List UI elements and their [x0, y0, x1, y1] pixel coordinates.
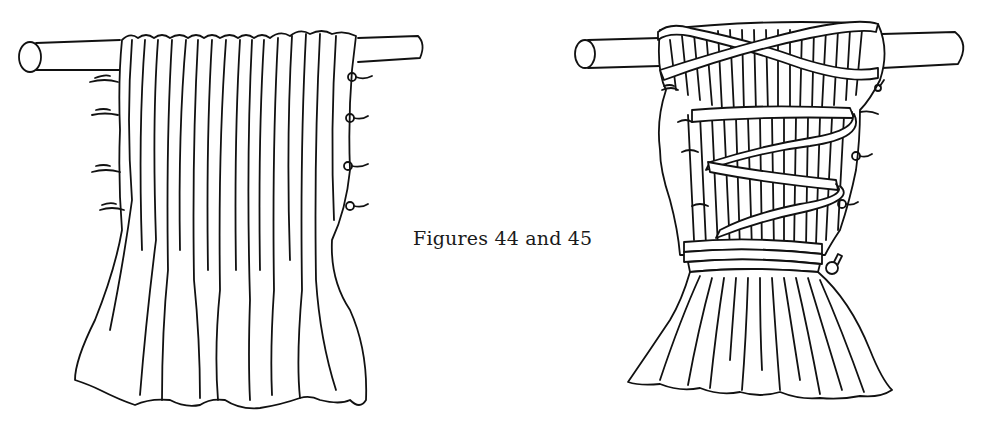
figure-45-illustration — [560, 0, 984, 435]
figure-44-illustration — [0, 0, 440, 435]
